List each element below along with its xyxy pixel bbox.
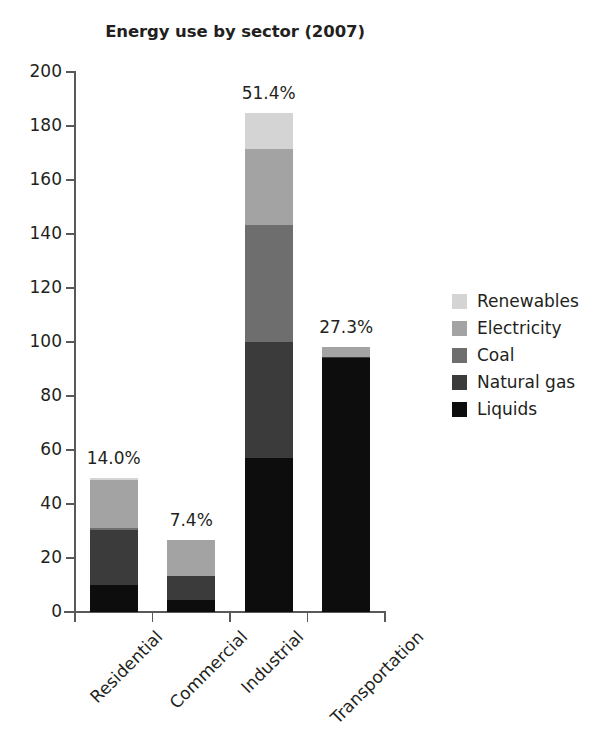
- x-tick-mark-2: [229, 612, 231, 622]
- legend-swatch-icon-renewables: [452, 294, 467, 309]
- bar-segment-residential-electricity[interactable]: [90, 480, 138, 529]
- legend-item-coal[interactable]: Coal: [452, 342, 579, 369]
- legend-swatch-icon-electricity: [452, 321, 467, 336]
- y-tick-label-120: 120: [18, 279, 62, 296]
- bar-transportation[interactable]: [322, 347, 370, 612]
- bar-segment-commercial-electricity[interactable]: [167, 540, 215, 575]
- chart-title: Energy use by sector (2007): [0, 22, 470, 41]
- legend-label: Electricity: [477, 320, 561, 337]
- plot-area: [75, 72, 385, 612]
- bar-segment-residential-coal[interactable]: [90, 528, 138, 529]
- bar-segment-residential-liquids[interactable]: [90, 585, 138, 612]
- bar-segment-transportation-electricity[interactable]: [322, 347, 370, 356]
- legend-item-renewables[interactable]: Renewables: [452, 288, 579, 315]
- bar-value-label-commercial: 7.4%: [141, 512, 241, 529]
- y-tick-label-40: 40: [18, 495, 62, 512]
- x-tick-mark-0: [74, 612, 76, 622]
- legend-item-natural-gas[interactable]: Natural gas: [452, 369, 579, 396]
- legend-swatch-icon-natural-gas: [452, 375, 467, 390]
- legend-item-liquids[interactable]: Liquids: [452, 396, 579, 423]
- bar-value-label-industrial: 51.4%: [219, 85, 319, 102]
- category-label-residential: Residential: [87, 628, 165, 706]
- bar-value-label-residential: 14.0%: [64, 450, 164, 467]
- legend-label: Renewables: [477, 293, 579, 310]
- chart-legend: RenewablesElectricityCoalNatural gasLiqu…: [452, 288, 579, 423]
- y-tick-mark-20: [66, 557, 75, 559]
- bar-segment-residential-renewables[interactable]: [90, 478, 138, 479]
- bar-value-label-transportation: 27.3%: [296, 319, 396, 336]
- y-tick-label-0: 0: [18, 603, 62, 620]
- bar-segment-industrial-natural-gas[interactable]: [245, 342, 293, 458]
- bar-industrial[interactable]: [245, 113, 293, 613]
- energy-use-stacked-bar-chart: Energy use by sector (2007) 020406080100…: [0, 0, 604, 754]
- category-label-transportation: Transportation: [328, 628, 427, 727]
- y-tick-mark-100: [66, 341, 75, 343]
- legend-swatch-icon-liquids: [452, 402, 467, 417]
- category-label-commercial: Commercial: [167, 628, 251, 712]
- bar-segment-industrial-liquids[interactable]: [245, 458, 293, 612]
- y-tick-mark-140: [66, 233, 75, 235]
- legend-label: Liquids: [477, 401, 537, 418]
- bar-segment-industrial-renewables[interactable]: [245, 113, 293, 149]
- y-tick-label-100: 100: [18, 333, 62, 350]
- bar-segment-commercial-liquids[interactable]: [167, 600, 215, 612]
- bar-segment-commercial-natural-gas[interactable]: [167, 576, 215, 600]
- y-tick-mark-160: [66, 179, 75, 181]
- y-tick-label-80: 80: [18, 387, 62, 404]
- bar-segment-residential-natural-gas[interactable]: [90, 530, 138, 585]
- bar-residential[interactable]: [90, 478, 138, 612]
- y-tick-mark-120: [66, 287, 75, 289]
- y-tick-label-200: 200: [18, 63, 62, 80]
- y-tick-label-20: 20: [18, 549, 62, 566]
- y-tick-mark-200: [66, 71, 75, 73]
- y-tick-mark-80: [66, 395, 75, 397]
- legend-swatch-icon-coal: [452, 348, 467, 363]
- x-tick-mark-1: [152, 612, 154, 622]
- legend-label: Coal: [477, 347, 514, 364]
- y-tick-mark-40: [66, 503, 75, 505]
- y-tick-label-160: 160: [18, 171, 62, 188]
- y-tick-label-180: 180: [18, 117, 62, 134]
- bar-segment-transportation-natural-gas[interactable]: [322, 357, 370, 358]
- x-tick-mark-4: [384, 612, 386, 622]
- y-tick-label-60: 60: [18, 441, 62, 458]
- bar-segment-industrial-coal[interactable]: [245, 225, 293, 342]
- bar-segment-transportation-liquids[interactable]: [322, 358, 370, 612]
- bar-segment-industrial-electricity[interactable]: [245, 149, 293, 225]
- y-axis-tick-labels: 020406080100120140160180200: [0, 0, 62, 754]
- y-tick-mark-180: [66, 125, 75, 127]
- legend-item-electricity[interactable]: Electricity: [452, 315, 579, 342]
- bar-commercial[interactable]: [167, 540, 215, 612]
- legend-label: Natural gas: [477, 374, 575, 391]
- y-tick-label-140: 140: [18, 225, 62, 242]
- x-tick-mark-3: [307, 612, 309, 622]
